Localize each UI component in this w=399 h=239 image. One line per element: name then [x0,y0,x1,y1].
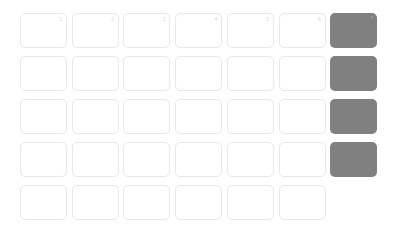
calendar-day-cell[interactable] [123,142,170,177]
calendar-day-cell[interactable] [72,142,119,177]
calendar-week-row [0,56,399,91]
calendar-day-cell[interactable] [175,99,222,134]
calendar-day-cell[interactable] [20,56,67,91]
calendar-day-cell[interactable] [279,185,326,220]
calendar-day-cell[interactable] [123,56,170,91]
calendar-day-cell[interactable] [330,142,377,177]
calendar-day-cell[interactable] [175,142,222,177]
calendar-week-row [0,185,399,220]
calendar-day-cell[interactable]: 4 [175,13,222,48]
calendar-week-row: 1234567 [0,13,399,48]
calendar-day-cell[interactable] [330,99,377,134]
calendar-day-cell[interactable] [72,99,119,134]
calendar-day-cell[interactable] [72,185,119,220]
calendar-day-cell[interactable] [20,99,67,134]
calendar-day-number: 6 [318,16,321,22]
calendar-day-cell[interactable] [123,185,170,220]
calendar-day-cell[interactable]: 3 [123,13,170,48]
calendar-day-cell[interactable]: 2 [72,13,119,48]
calendar-day-number: 3 [163,16,166,22]
calendar-day-cell[interactable]: 1 [20,13,67,48]
calendar-day-cell[interactable]: 7 [330,13,377,48]
calendar-month-grid: 1234567 [0,0,399,239]
calendar-day-number: 4 [215,16,218,22]
calendar-week-row [0,142,399,177]
calendar-day-number: 2 [111,16,114,22]
calendar-day-cell[interactable] [123,99,170,134]
calendar-day-cell[interactable] [279,56,326,91]
calendar-day-cell[interactable] [175,185,222,220]
calendar-day-cell[interactable] [227,142,274,177]
calendar-day-cell[interactable] [227,99,274,134]
calendar-day-cell[interactable] [279,142,326,177]
calendar-day-number: 5 [266,16,269,22]
calendar-cell-empty [330,185,377,220]
calendar-day-cell[interactable] [227,185,274,220]
calendar-day-cell[interactable] [20,142,67,177]
calendar-day-cell[interactable] [72,56,119,91]
calendar-day-cell[interactable]: 6 [279,13,326,48]
calendar-day-cell[interactable] [330,56,377,91]
calendar-day-cell[interactable] [20,185,67,220]
calendar-week-row [0,99,399,134]
calendar-day-cell[interactable] [279,99,326,134]
calendar-day-cell[interactable] [175,56,222,91]
calendar-day-number: 7 [371,15,374,21]
calendar-day-cell[interactable] [227,56,274,91]
calendar-day-number: 1 [59,16,62,22]
calendar-day-cell[interactable]: 5 [227,13,274,48]
